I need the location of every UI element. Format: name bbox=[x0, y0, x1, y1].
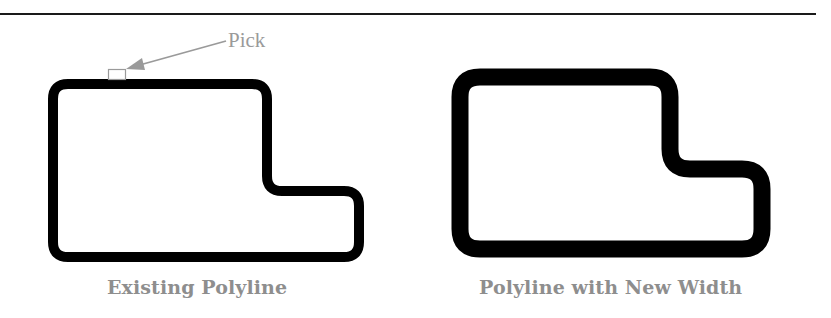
new-width-polyline bbox=[460, 77, 762, 249]
caption-new-width-polyline: Polyline with New Width bbox=[479, 276, 742, 298]
existing-polyline bbox=[53, 84, 359, 257]
caption-existing-polyline: Existing Polyline bbox=[107, 276, 287, 298]
pick-label: Pick bbox=[228, 28, 265, 53]
pick-box bbox=[109, 70, 126, 80]
pick-arrow-icon bbox=[126, 41, 226, 70]
polyline-diagram bbox=[0, 0, 831, 318]
